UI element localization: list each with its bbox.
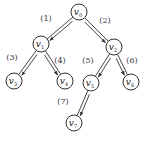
edge-label: (7) (57, 97, 68, 106)
edge-v5-v7 (77, 90, 88, 115)
edges (19, 17, 128, 116)
node-v5: v5 (83, 75, 99, 91)
edge-label: (1) (40, 14, 51, 23)
node-v7: v7 (66, 115, 82, 131)
edge-v2-v5 (95, 54, 109, 77)
nodes: v0v1v2v3v4v5v6v7 (6, 4, 139, 131)
node-v4: v4 (57, 73, 73, 89)
edge-label: (3) (6, 53, 17, 62)
node-v0: v0 (71, 4, 87, 20)
tree-diagram: (1)(2)(3)(4)(5)(6)(7) v0v1v2v3v4v5v6v7 (0, 0, 147, 142)
edge-label: (2) (99, 16, 110, 25)
edge-label: (5) (82, 56, 93, 65)
arrow-icon (50, 21, 73, 40)
node-v2: v2 (106, 39, 122, 55)
arrow-icon (22, 55, 37, 76)
edge-labels: (1)(2)(3)(4)(5)(6)(7) (6, 14, 137, 106)
node-v1: v1 (33, 36, 49, 52)
node-v3: v3 (6, 73, 22, 89)
arrow-icon (85, 22, 106, 43)
edge-v1-v3 (19, 50, 37, 74)
node-v6: v6 (123, 74, 139, 90)
arrow-icon (98, 58, 110, 77)
edge-label: (6) (126, 56, 137, 65)
edge-label: (4) (54, 56, 65, 65)
